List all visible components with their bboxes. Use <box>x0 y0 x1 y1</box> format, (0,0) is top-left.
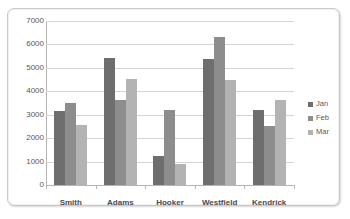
x-category-label-smith: Smith <box>46 199 96 207</box>
bar-group <box>195 21 245 185</box>
x-axis-tick <box>96 185 97 189</box>
bar <box>115 100 126 185</box>
y-tick-label-6000: 6000 <box>10 40 44 48</box>
y-tick-label-5000: 5000 <box>10 64 44 72</box>
gridline-0 <box>46 185 294 186</box>
chart-frame: 01000200030004000500060007000 SmithAdams… <box>7 8 340 206</box>
bar <box>65 103 76 185</box>
legend-swatch-icon <box>308 102 313 107</box>
y-tick-label-1000: 1000 <box>10 158 44 166</box>
legend-item-feb[interactable]: Feb <box>308 111 329 125</box>
bar <box>54 111 65 185</box>
legend-swatch-icon <box>308 130 313 135</box>
y-tick-label-2000: 2000 <box>10 134 44 142</box>
x-category-label-westfield: Westfield <box>195 199 245 207</box>
bar <box>214 37 225 185</box>
y-tick-label-4000: 4000 <box>10 87 44 95</box>
bar <box>76 125 87 185</box>
bar-group <box>145 21 195 185</box>
legend-item-mar[interactable]: Mar <box>308 125 329 139</box>
bar-group <box>96 21 146 185</box>
bar <box>153 156 164 185</box>
chart-legend: JanFebMar <box>308 97 329 139</box>
y-axis-tick-labels: 01000200030004000500060007000 <box>8 21 44 185</box>
legend-label: Feb <box>316 114 329 122</box>
x-axis-tick <box>294 185 295 189</box>
x-axis-tick <box>145 185 146 189</box>
y-tick-label-0: 0 <box>10 181 44 189</box>
x-category-label-hooker: Hooker <box>145 199 195 207</box>
bar <box>275 100 286 185</box>
bar <box>104 58 115 185</box>
bar <box>126 79 137 185</box>
bar <box>225 80 236 185</box>
bar <box>264 126 275 185</box>
x-axis-tick <box>46 185 47 189</box>
x-axis-tick <box>195 185 196 189</box>
plot-area <box>46 21 294 185</box>
legend-item-jan[interactable]: Jan <box>308 97 329 111</box>
y-tick-label-3000: 3000 <box>10 111 44 119</box>
legend-label: Jan <box>316 100 328 108</box>
x-category-label-kendrick: Kendrick <box>244 199 294 207</box>
x-category-label-adams: Adams <box>96 199 146 207</box>
bar <box>253 110 264 185</box>
y-tick-label-7000: 7000 <box>10 17 44 25</box>
legend-swatch-icon <box>308 116 313 121</box>
legend-label: Mar <box>316 128 329 136</box>
bar-group <box>46 21 96 185</box>
bar <box>203 59 214 186</box>
bar-group <box>244 21 294 185</box>
bar <box>164 110 175 185</box>
bar <box>175 164 186 185</box>
x-axis-tick <box>244 185 245 189</box>
